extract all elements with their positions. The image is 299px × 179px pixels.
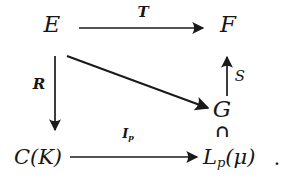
arrow-T-label: T — [137, 5, 148, 20]
sentence-period: . — [274, 148, 280, 168]
node-Lp: Lp(μ) — [203, 147, 255, 168]
node-E: E — [44, 13, 61, 36]
node-CK: C(K) — [14, 147, 62, 168]
node-Lp-args: (μ) — [225, 145, 255, 169]
set-inclusion-symbol: ∩ — [215, 123, 229, 140]
arrow-R-label: R — [33, 77, 45, 92]
node-G: G — [213, 98, 231, 121]
node-F: F — [220, 13, 236, 36]
arrow-Ip-subscript: p — [128, 132, 134, 142]
arrow-diagonal-shaft — [67, 56, 208, 108]
commutative-diagram: E F G ∩ C(K) Lp(μ) . T R S Ip — [0, 0, 299, 179]
arrow-Ip-label: Ip — [122, 127, 134, 140]
node-Lp-subscript: p — [217, 155, 225, 170]
node-Lp-base: L — [203, 145, 217, 169]
arrow-S-label: S — [235, 69, 245, 84]
